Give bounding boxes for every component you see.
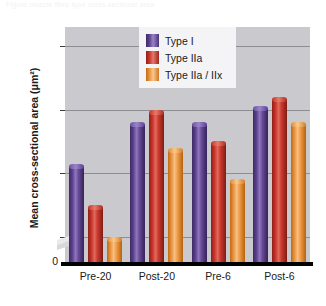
- bar-shaft: [253, 109, 268, 262]
- y-axis-zero-label: 0: [46, 255, 58, 267]
- bar-shaft: [272, 100, 287, 262]
- legend-item-type-iia-iix[interactable]: Type IIa / IIx: [146, 66, 236, 83]
- legend-label-type-i: Type I: [165, 35, 194, 47]
- y-tick-5000: [60, 110, 65, 111]
- legend-item-type-i[interactable]: Type I: [146, 32, 236, 49]
- y-axis-title: Mean cross-sectional area (μm²): [28, 48, 40, 248]
- bar-shaft: [291, 125, 306, 262]
- bar-shaft: [107, 240, 122, 262]
- legend-swatch-icon-type-iia-iix: [146, 68, 159, 81]
- bar-post-20-series-2[interactable]: [149, 110, 164, 262]
- bar-cap: [291, 122, 306, 127]
- bar-pre-20-series-1[interactable]: [69, 164, 84, 262]
- bar-shaft: [88, 208, 103, 262]
- x-axis-label-pre-6: Pre-6: [183, 270, 253, 282]
- legend-swatch-icon-type-iia: [146, 51, 159, 64]
- bar-cap: [69, 164, 84, 169]
- bar-cap: [130, 122, 145, 127]
- bar-pre-6-series-2[interactable]: [211, 141, 226, 262]
- bar-cap: [168, 148, 183, 153]
- bar-post-20-series-1[interactable]: [130, 122, 145, 262]
- bar-shaft: [230, 182, 245, 262]
- legend-label-type-iia-iix: Type IIa / IIx: [165, 69, 222, 81]
- y-tick-4000: [60, 173, 65, 174]
- y-tick-6000: [60, 46, 65, 47]
- bar-shaft: [192, 125, 207, 262]
- bar-post-20-series-3[interactable]: [168, 148, 183, 262]
- legend-swatch-icon-type-i: [146, 34, 159, 47]
- bar-post-6-series-1[interactable]: [253, 106, 268, 262]
- bar-cap: [107, 237, 122, 242]
- bar-cap: [230, 179, 245, 184]
- bar-cap: [253, 106, 268, 111]
- bar-shaft: [211, 144, 226, 262]
- bar-pre-20-series-2[interactable]: [88, 205, 103, 262]
- bar-shaft: [130, 125, 145, 262]
- bar-shaft: [69, 167, 84, 262]
- bar-post-6-series-3[interactable]: [291, 122, 306, 262]
- chart-legend: Type I Type IIa Type IIa / IIx: [139, 27, 236, 88]
- bar-cap: [211, 141, 226, 146]
- bar-cap: [88, 205, 103, 210]
- figure-caption: Figure muscle fibre type cross-sectional…: [6, 0, 306, 10]
- legend-item-type-iia[interactable]: Type IIa: [146, 49, 236, 66]
- x-axis-baseline: [61, 262, 313, 266]
- bar-pre-6-series-3[interactable]: [230, 179, 245, 262]
- bar-cap: [272, 97, 287, 102]
- x-axis-label-pre-20: Pre-20: [61, 270, 131, 282]
- bar-cap: [149, 110, 164, 115]
- x-axis-label-post-6: Post-6: [244, 270, 314, 282]
- bar-post-6-series-2[interactable]: [272, 97, 287, 262]
- bar-shaft: [149, 113, 164, 262]
- bar-pre-6-series-1[interactable]: [192, 122, 207, 262]
- y-axis-break-icon: [57, 236, 69, 250]
- legend-label-type-iia: Type IIa: [165, 52, 202, 64]
- bar-pre-20-series-3[interactable]: [107, 237, 122, 262]
- bar-shaft: [168, 151, 183, 262]
- x-axis-label-post-20: Post-20: [122, 270, 192, 282]
- bar-chart-figure: Figure muscle fibre type cross-sectional…: [0, 0, 326, 306]
- bar-cap: [192, 122, 207, 127]
